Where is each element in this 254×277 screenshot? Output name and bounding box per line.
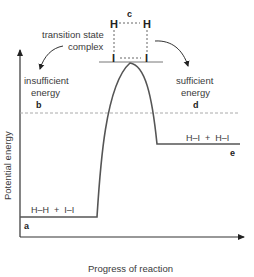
transition-state-label-line2: complex <box>68 41 104 52</box>
sufficient-energy-label-line1: sufficient <box>176 75 214 86</box>
complex-atom-i-right: I <box>145 52 148 64</box>
complex-atom-h-right: H <box>143 18 151 30</box>
transition-state-label-line1: transition state <box>42 29 104 40</box>
energy-diagram: H H I I c transition state complex insuf… <box>0 0 254 277</box>
insufficient-energy-label-line1: insufficient <box>24 75 69 86</box>
label-d: d <box>193 100 199 110</box>
sufficient-energy-label-line2: energy <box>181 87 210 98</box>
label-b: b <box>36 100 42 110</box>
products-label: H–I + H–I <box>186 133 229 143</box>
complex-atom-h-left: H <box>110 18 118 30</box>
insufficient-energy-label-line2: energy <box>31 87 60 98</box>
x-axis-label: Progress of reaction <box>88 263 173 274</box>
insufficient-arrow <box>40 46 63 69</box>
label-c: c <box>127 9 132 19</box>
complex-atom-i-left: I <box>112 52 115 64</box>
y-axis-label: Potential energy <box>2 131 13 200</box>
reactants-label: H–H + I–I <box>31 205 74 215</box>
label-a: a <box>24 221 30 231</box>
label-e: e <box>230 148 235 158</box>
